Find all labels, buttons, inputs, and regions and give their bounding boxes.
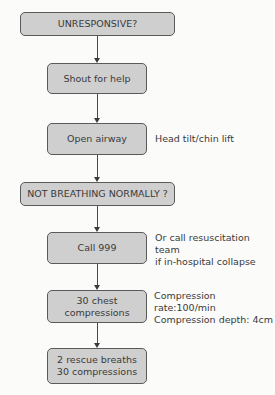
- step-not-breathing-normally: NOT BREATHING NORMALLY ?: [20, 182, 175, 206]
- connector-line: [97, 323, 98, 343]
- note-call-999: Or call resuscitation team if in-hospita…: [155, 232, 275, 268]
- step-unresponsive: UNRESPONSIVE?: [20, 12, 175, 36]
- connector-line: [97, 264, 98, 285]
- note-compressions: Compression rate:100/min Compression dep…: [154, 290, 275, 326]
- step-label: Shout for help: [63, 73, 130, 85]
- step-shout-for-help: Shout for help: [47, 63, 147, 94]
- connector-line: [97, 36, 98, 58]
- step-chest-compressions: 30 chest compressions: [47, 290, 147, 323]
- step-label: 2 rescue breaths 30 compressions: [57, 354, 137, 378]
- step-open-airway: Open airway: [47, 123, 147, 155]
- step-label: NOT BREATHING NORMALLY ?: [27, 188, 168, 200]
- step-rescue-breaths-cycle: 2 rescue breaths 30 compressions: [47, 348, 147, 384]
- step-call-999: Call 999: [47, 232, 147, 264]
- step-label: Open airway: [67, 133, 127, 145]
- note-open-airway: Head tilt/chin lift: [155, 133, 234, 145]
- connector-line: [97, 94, 98, 118]
- step-label: 30 chest compressions: [64, 295, 129, 319]
- connector-line: [97, 206, 98, 227]
- step-label: UNRESPONSIVE?: [58, 18, 137, 30]
- connector-line: [97, 155, 98, 177]
- step-label: Call 999: [78, 242, 117, 254]
